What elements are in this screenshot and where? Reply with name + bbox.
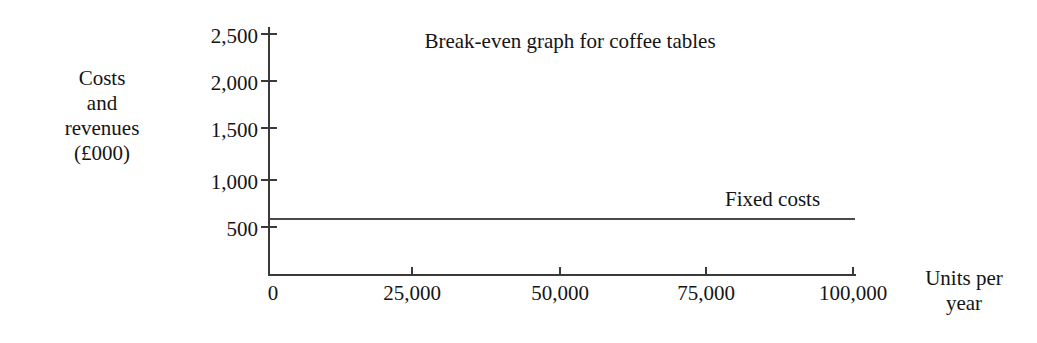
y-tick-label-1000: 1,000 bbox=[188, 172, 258, 193]
x-tick-mark-75000 bbox=[705, 267, 707, 276]
x-tick-label-50000: 50,000 bbox=[500, 283, 620, 304]
y-tick-label-1500: 1,500 bbox=[188, 120, 258, 141]
x-tick-mark-50000 bbox=[559, 267, 561, 276]
x-axis-line bbox=[268, 274, 856, 276]
fixed-costs-line bbox=[269, 218, 855, 220]
x-tick-mark-25000 bbox=[411, 267, 413, 276]
y-tick-mark-1500 bbox=[261, 127, 277, 129]
break-even-chart-figure: Costs and revenues (£000) Break-even gra… bbox=[0, 0, 1037, 343]
x-tick-label-0: 0 bbox=[213, 283, 333, 304]
x-axis-title-line-1: Units per bbox=[900, 266, 1028, 291]
y-tick-mark-2500 bbox=[261, 33, 277, 35]
fixed-costs-label: Fixed costs bbox=[725, 189, 820, 210]
x-tick-mark-100000 bbox=[852, 267, 854, 276]
x-tick-label-25000: 25,000 bbox=[352, 283, 472, 304]
x-axis-title-line-2: year bbox=[900, 291, 1028, 316]
y-tick-mark-2000 bbox=[261, 80, 277, 82]
chart-title: Break-even graph for coffee tables bbox=[310, 29, 830, 53]
y-axis-line bbox=[268, 27, 270, 276]
y-tick-label-2500: 2,500 bbox=[188, 26, 258, 47]
x-tick-label-75000: 75,000 bbox=[646, 283, 766, 304]
y-tick-mark-500 bbox=[261, 226, 277, 228]
y-tick-label-2000: 2,000 bbox=[188, 73, 258, 94]
plot-area: Break-even graph for coffee tables 2,500… bbox=[0, 0, 1037, 343]
y-tick-label-500: 500 bbox=[188, 219, 258, 240]
x-axis-title: Units per year bbox=[900, 266, 1028, 316]
x-tick-label-100000: 100,000 bbox=[793, 283, 913, 304]
y-tick-mark-1000 bbox=[261, 179, 277, 181]
